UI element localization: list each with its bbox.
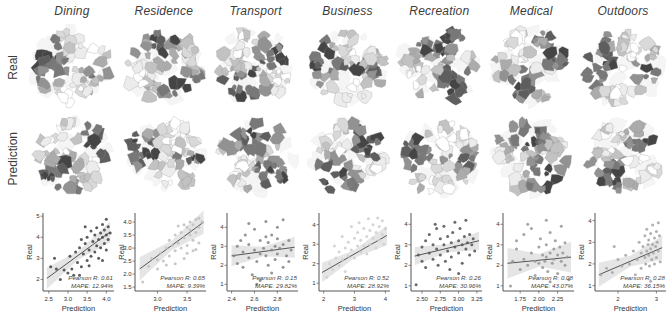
- x-tick-label: 3: [353, 296, 357, 302]
- x-tick-label: 3.25: [471, 296, 483, 302]
- x-tick-label: 4: [384, 296, 388, 302]
- tsne-map-image: [396, 115, 482, 203]
- tsne-map-image: [304, 115, 390, 203]
- y-axis-title: Real: [118, 244, 126, 260]
- y-axis-title: Real: [26, 244, 34, 260]
- y-tick-label: 2: [37, 276, 41, 282]
- scatter-residence: 3.03.51.52.02.53.03.54.0PredictionRealPe…: [118, 206, 210, 325]
- y-tick-label: 4: [496, 221, 500, 227]
- mape-label: MAPE: 9.39%: [167, 282, 206, 289]
- y-axis-title: Real: [394, 244, 402, 260]
- map-prediction-medical: [485, 112, 577, 206]
- scatter-plot: 2.42.62.81234PredictionRealPearson R: 0.…: [210, 206, 301, 325]
- y-tick-label: 3: [37, 255, 41, 261]
- y-tick-label: 4: [312, 222, 316, 228]
- figure-panel: Dining Residence Transport Business Recr…: [0, 0, 669, 325]
- y-tick-label: 1: [588, 283, 592, 289]
- y-tick-label: 1: [496, 283, 500, 289]
- tsne-map-image: [304, 24, 390, 110]
- y-tick-label: 2: [404, 262, 408, 268]
- scatter-outdoors: 231234PredictionRealPearson R: 0.28MAPE:…: [577, 206, 669, 325]
- map-prediction-business: [302, 112, 394, 206]
- x-tick-label: 2.4: [228, 296, 237, 302]
- y-tick-label: 1: [220, 281, 224, 287]
- x-tick-label: 3.0: [64, 296, 73, 302]
- tsne-map-image: [580, 24, 666, 110]
- scatter-plot: 2.502.753.003.251234PredictionRealPearso…: [394, 206, 485, 325]
- tsne-map-image: [488, 24, 574, 110]
- y-tick-label: 2.0: [123, 271, 132, 277]
- pearson-r-label: Pearson R: 0.08: [528, 274, 573, 281]
- header-spacer: [0, 0, 26, 22]
- x-tick-label: 2.25: [551, 296, 563, 302]
- column-header-residence: Residence: [118, 0, 210, 22]
- y-tick-label: 4: [37, 234, 41, 240]
- y-tick-label: 2: [220, 262, 224, 268]
- column-header-label: Residence: [135, 4, 194, 18]
- column-header-label: Transport: [230, 4, 282, 18]
- scatter-dining: 2.53.03.54.02345PredictionRealPearson R:…: [26, 206, 118, 325]
- map-prediction-recreation: [393, 112, 485, 206]
- y-axis-title: Real: [302, 244, 310, 260]
- tsne-map-image: [580, 115, 666, 203]
- y-tick-label: 3: [312, 241, 316, 247]
- mape-label: MAPE: 30.96%: [439, 282, 481, 289]
- tsne-map-image: [488, 115, 574, 203]
- y-axis-title: Real: [486, 244, 494, 260]
- pearson-r-label: Pearson R: 0.65: [161, 274, 206, 281]
- y-tick-label: 4: [588, 218, 592, 224]
- y-tick-label: 2: [496, 262, 500, 268]
- column-header-dining: Dining: [26, 0, 118, 22]
- y-tick-label: 2: [312, 261, 316, 267]
- x-tick-label: 2: [616, 296, 620, 302]
- scatter-business: 2341234PredictionRealPearson R: 0.52MAPE…: [302, 206, 394, 325]
- tsne-map-image: [213, 115, 299, 203]
- scatter-plot: 1.752.002.251234PredictionRealPearson R:…: [486, 206, 577, 325]
- x-axis-title: Prediction: [62, 304, 95, 313]
- map-real-outdoors: [577, 22, 669, 112]
- x-tick-label: 3.5: [183, 296, 192, 302]
- y-tick-label: 3: [588, 239, 592, 245]
- x-axis-title: Prediction: [430, 304, 463, 313]
- x-axis-title: Prediction: [522, 304, 555, 313]
- tsne-map-image: [29, 24, 115, 110]
- x-axis-title: Prediction: [338, 304, 371, 313]
- map-prediction-dining: [26, 112, 118, 206]
- pearson-r-label: Pearson R: 0.26: [436, 274, 481, 281]
- x-tick-label: 2.8: [273, 296, 282, 302]
- y-tick-label: 5: [37, 213, 41, 219]
- tsne-map-image: [121, 24, 207, 110]
- y-tick-label: 4.0: [123, 219, 132, 225]
- scatter-plot: 2341234PredictionRealPearson R: 0.52MAPE…: [302, 206, 393, 325]
- map-real-dining: [26, 22, 118, 112]
- map-real-transport: [210, 22, 302, 112]
- scatter-recreation: 2.502.753.003.251234PredictionRealPearso…: [393, 206, 485, 325]
- scatter-plot: 231234PredictionRealPearson R: 0.28MAPE:…: [578, 206, 669, 325]
- pearson-r-label: Pearson R: 0.15: [252, 274, 297, 281]
- x-tick-label: 3.0: [154, 296, 163, 302]
- column-header-transport: Transport: [210, 0, 302, 22]
- mape-label: MAPE: 29.82%: [255, 282, 297, 289]
- pearson-r-label: Pearson R: 0.61: [69, 274, 114, 281]
- y-tick-label: 2: [588, 261, 592, 267]
- scatter-transport: 2.42.62.81234PredictionRealPearson R: 0.…: [210, 206, 302, 325]
- y-tick-label: 1.5: [123, 284, 132, 290]
- column-header-label: Medical: [510, 4, 553, 18]
- map-real-recreation: [393, 22, 485, 112]
- mape-label: MAPE: 43.07%: [531, 282, 573, 289]
- column-header-outdoors: Outdoors: [577, 0, 669, 22]
- pearson-r-label: Pearson R: 0.28: [620, 274, 665, 281]
- map-prediction-transport: [210, 112, 302, 206]
- x-tick-label: 3.00: [453, 296, 465, 302]
- tsne-map-image: [29, 115, 115, 203]
- y-tick-label: 3: [404, 242, 408, 248]
- pearson-r-label: Pearson R: 0.52: [344, 274, 389, 281]
- x-tick-label: 2.75: [434, 296, 446, 302]
- column-header-label: Dining: [54, 4, 89, 18]
- row-label-prediction: Prediction: [0, 112, 26, 206]
- mape-label: MAPE: 28.92%: [347, 282, 389, 289]
- y-tick-label: 3.5: [123, 232, 132, 238]
- map-prediction-outdoors: [577, 112, 669, 206]
- y-axis-title: Real: [578, 244, 586, 260]
- map-real-residence: [118, 22, 210, 112]
